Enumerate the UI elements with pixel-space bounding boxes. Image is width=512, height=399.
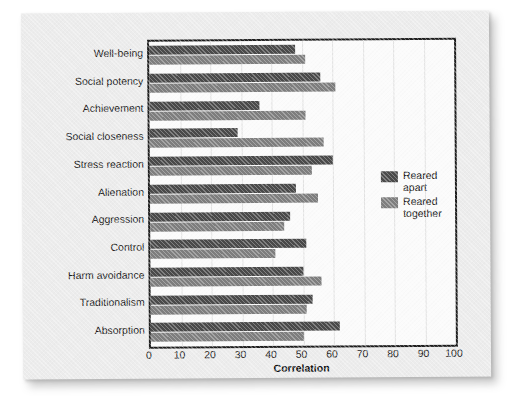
bar-reared-apart: [150, 156, 333, 166]
bar-chart: Well-beingSocial potencyAchievementSocia…: [21, 11, 491, 380]
bar-groups: [149, 40, 454, 42]
x-tick-label: 60: [326, 348, 338, 360]
category-label: Aggression: [22, 213, 144, 226]
bar-group: [151, 289, 456, 319]
legend-label-reared-together: Reared together: [403, 196, 442, 219]
category-label: Social closeness: [22, 130, 144, 143]
bar-reared-together: [150, 221, 284, 231]
category-axis-labels: Well-beingSocial potencyAchievementSocia…: [21, 40, 145, 346]
bar-reared-together: [150, 249, 275, 259]
chart-legend: Reared apart Reared together: [381, 170, 489, 223]
bar-reared-together: [149, 110, 305, 120]
category-label: Stress reaction: [22, 157, 144, 170]
figure-card: Well-beingSocial potencyAchievementSocia…: [21, 11, 491, 380]
x-tick-label: 10: [174, 348, 186, 360]
category-label: Well-being: [21, 47, 143, 60]
category-label: Traditionalism: [23, 296, 145, 309]
x-tick-label: 0: [146, 349, 152, 361]
bar-reared-together: [150, 138, 324, 148]
x-tick-label: 30: [235, 348, 247, 360]
bar-reared-together: [149, 82, 335, 92]
bar-reared-apart: [149, 45, 295, 55]
bar-reared-apart: [150, 267, 303, 277]
bar-reared-apart: [149, 73, 320, 83]
legend-label-reared-apart: Reared apart: [403, 170, 438, 193]
bar-reared-apart: [150, 211, 290, 221]
category-label: Alienation: [22, 185, 144, 198]
x-tick-label: 70: [357, 347, 369, 359]
bar-reared-apart: [150, 239, 306, 249]
bar-reared-together: [151, 304, 307, 314]
category-label: Absorption: [23, 324, 145, 337]
bar-group: [150, 234, 455, 264]
x-tick-label: 80: [387, 347, 399, 359]
bar-group: [151, 317, 456, 347]
category-label: Harm avoidance: [22, 268, 144, 281]
category-label: Achievement: [21, 102, 143, 115]
legend-swatch-reared-together: [381, 197, 398, 208]
x-tick-label: 90: [418, 347, 430, 359]
x-tick-label: 40: [265, 348, 277, 360]
bar-reared-together: [151, 332, 304, 342]
bar-reared-together: [150, 166, 312, 176]
bar-reared-apart: [151, 322, 340, 332]
x-axis-title: Correlation: [149, 361, 454, 375]
category-label: Control: [22, 241, 144, 254]
bar-reared-apart: [149, 101, 259, 111]
plot-area: Reared apart Reared together: [147, 38, 458, 349]
x-tick-label: 100: [445, 347, 463, 359]
legend-swatch-reared-apart: [381, 171, 398, 182]
figure-root: Well-beingSocial potencyAchievementSocia…: [0, 0, 512, 399]
bar-group: [149, 95, 454, 125]
legend-item-reared-apart: Reared apart: [381, 170, 489, 194]
bar-group: [149, 40, 454, 70]
bar-reared-together: [150, 193, 318, 203]
bar-reared-apart: [150, 128, 238, 138]
bar-group: [150, 262, 455, 292]
x-tick-label: 20: [204, 348, 216, 360]
x-tick-label: 50: [296, 348, 308, 360]
bar-reared-apart: [151, 294, 313, 304]
bar-reared-together: [151, 277, 322, 287]
bar-reared-apart: [150, 184, 296, 194]
legend-item-reared-together: Reared together: [381, 196, 489, 220]
category-label: Social potency: [21, 74, 143, 87]
bar-reared-together: [149, 55, 305, 65]
bar-group: [149, 68, 454, 98]
bar-group: [150, 123, 455, 153]
